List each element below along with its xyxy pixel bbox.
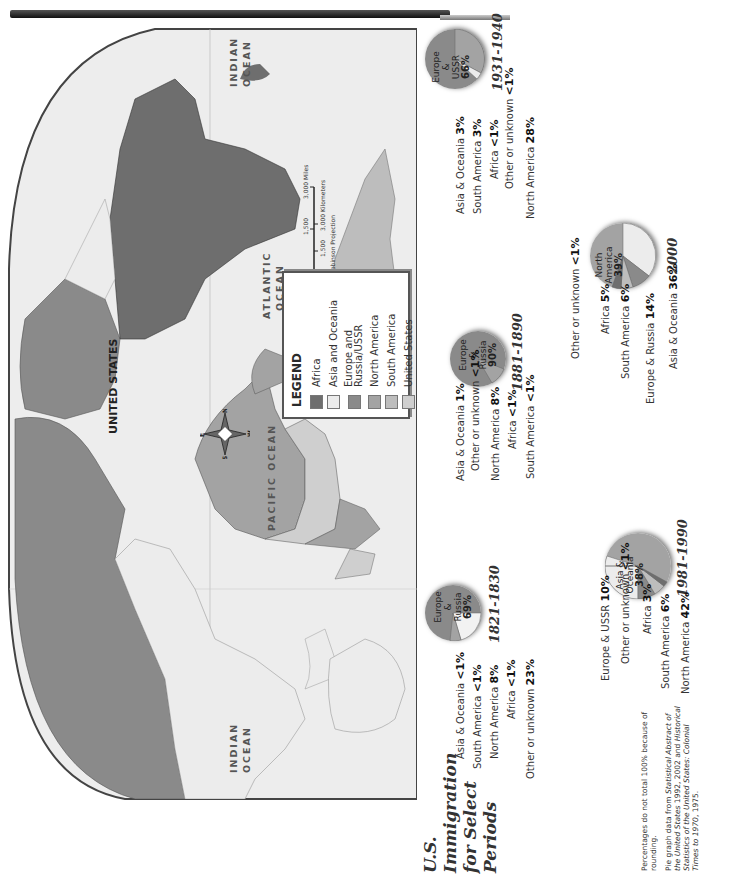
svg-text:3,000 Kilometers: 3,000 Kilometers	[319, 180, 326, 231]
pie-1931-label-south-america: South America 3%	[472, 119, 483, 214]
legend-item-africa: Africa	[308, 281, 325, 409]
svg-text:Robinson Projection: Robinson Projection	[329, 215, 337, 274]
compass-e: E	[200, 433, 205, 437]
pie-1931-label-north-america: North America 28%	[525, 117, 536, 219]
pie-1821-label-north-america: North America 8%	[489, 665, 500, 759]
pie-1981-label-other: Other or unknown <1%	[620, 542, 631, 664]
pie-1881-label-other: Other or unknown <1%	[470, 349, 481, 471]
pacific-ocean-label: PACIFIC OCEAN	[266, 424, 277, 531]
legend-title: LEGEND	[290, 281, 304, 407]
indian-ocean-east-label-1: INDIAN	[228, 37, 239, 87]
pie-1821-label-asia: Asia & Oceania <1%	[455, 652, 466, 759]
compass-w: W	[246, 430, 250, 437]
pie-1881-label-north-america: North America 8%	[490, 387, 501, 481]
pie-1821-graphic: Europe &Russia69%	[425, 585, 481, 641]
footnotes: Percentages do not total 100% because of…	[640, 701, 706, 871]
source-note: Pie graph data from Statistical Abstract…	[664, 701, 700, 871]
pie-2000-label-europe: Europe & Russia 14%	[645, 293, 656, 404]
pie-1881-label-south-america: South America <1%	[525, 374, 536, 479]
pie-1981-label-north-america: North America 42%	[680, 592, 691, 694]
pie-2000-label-south-america: South America 6%	[620, 284, 631, 379]
rounding-note: Percentages do not total 100% because of…	[640, 701, 658, 871]
pie-2000-label-other: Other or unknown <1%	[570, 237, 581, 359]
pie-1881-label-asia: Asia & Oceania 1%	[455, 383, 466, 481]
pie-1981-graphic: Asia &Oceania38%	[605, 533, 671, 599]
pie-1821-label-africa: Africa <1%	[506, 659, 517, 719]
pie-1931-label-asia: Asia & Oceania 3%	[455, 116, 466, 214]
map-legend: LEGEND Africa Asia and Oceania Europe an…	[282, 271, 410, 419]
page-edge-shadow	[10, 10, 450, 18]
pie-1981-label-europe: Europe & USSR 10%	[600, 575, 611, 681]
period-label-1881: 1881-1890	[510, 313, 525, 391]
indian-ocean-east-label-2: OCEAN	[241, 40, 252, 87]
pie-2000-label-asia: Asia & Oceania 36%	[668, 263, 679, 369]
period-label-1981: 1981-1990	[675, 519, 690, 597]
textbook-page: PACIFIC OCEAN ATLANTIC OCEAN INDIAN OCEA…	[0, 0, 736, 879]
atlantic-ocean-label-1: ATLANTIC	[261, 252, 272, 319]
svg-text:1,500: 1,500	[319, 240, 326, 257]
pie-1931-graphic: Europe &USSR66%	[425, 29, 485, 89]
pie-2000-label-africa: Africa 5%	[600, 284, 611, 334]
legend-item-united-states: United States	[400, 281, 417, 409]
pie-1981-label-africa: Africa 3%	[642, 584, 653, 634]
compass-n: N	[221, 409, 228, 413]
pie-1931-label-other: Other or unknown <1%	[504, 67, 515, 189]
legend-item-europe: Europe and Russia/USSR	[342, 281, 366, 409]
pie-1821-label-south-america: South America <1%	[472, 664, 483, 769]
legend-item-south-america: South America	[383, 281, 400, 409]
legend-item-asia: Asia and Oceania	[325, 281, 342, 409]
legend-item-north-america: North America	[366, 281, 383, 409]
pie-1931-label-africa: Africa <1%	[489, 119, 500, 179]
indian-ocean-west-label-2: OCEAN	[241, 726, 252, 773]
compass-s: S	[221, 456, 228, 459]
pie-1821-label-other: Other or unknown 23%	[525, 659, 536, 779]
pie-2000-graphic: NorthAmerica39%	[590, 223, 656, 289]
svg-text:3,000 Miles: 3,000 Miles	[302, 165, 309, 199]
united-states-label: UNITED STATES	[107, 339, 120, 434]
scale-bar: 0 1,500 3,000 Miles 0 1,500 3,000 Kilome…	[300, 159, 350, 279]
period-label-1821: 1821-1830	[487, 565, 502, 643]
pie-1881-label-africa: Africa <1%	[507, 389, 518, 449]
indian-ocean-west-label-1: INDIAN	[228, 723, 239, 773]
pie-1981-label-south-america: South America 6%	[660, 594, 671, 689]
compass-rose-icon: E W S N	[200, 409, 250, 459]
page-title: U.S. Immigration for Select Periods	[420, 773, 500, 873]
svg-text:1,500: 1,500	[302, 218, 309, 235]
